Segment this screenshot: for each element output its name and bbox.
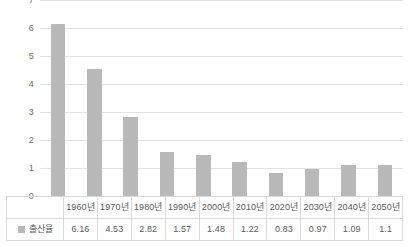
bar-slot — [294, 0, 330, 196]
y-axis-tick-label: 2 — [29, 136, 34, 145]
table-row-categories: 1960년1970년1980년1990년2000년2010년2020년2030년… — [7, 197, 403, 219]
bar-slot — [258, 0, 294, 196]
y-axis-tick-label: 5 — [29, 52, 34, 61]
bar — [160, 152, 175, 196]
table-cell-category: 2040년 — [335, 197, 369, 218]
table-cell-value: 1.48 — [200, 219, 234, 240]
bar-slot — [76, 0, 112, 196]
table-cell-category: 1960년 — [64, 197, 98, 218]
table-cell-value: 0.97 — [301, 219, 335, 240]
table-cell-value: 0.83 — [267, 219, 301, 240]
table-cell-category: 2010년 — [234, 197, 268, 218]
table-cell-category: 2030년 — [301, 197, 335, 218]
table-cell-category: 1980년 — [132, 197, 166, 218]
table-cell-value: 2.82 — [132, 219, 166, 240]
table-cell-category: 2020년 — [267, 197, 301, 218]
bar — [232, 162, 247, 196]
table-cell-category: 2000년 — [200, 197, 234, 218]
y-axis-tick-label: 7 — [29, 0, 34, 5]
table-cell-value: 1.57 — [166, 219, 200, 240]
bar — [196, 155, 211, 196]
table-row-values: 출산율 6.164.532.821.571.481.220.830.971.09… — [7, 219, 403, 241]
table-cell-value: 1.22 — [234, 219, 268, 240]
bar — [269, 173, 284, 196]
bar-slot — [367, 0, 403, 196]
table-cell-value: 6.16 — [64, 219, 98, 240]
y-axis-tick-label: 6 — [29, 24, 34, 33]
table-cell-value: 1.09 — [335, 219, 369, 240]
bar-slot — [221, 0, 257, 196]
bar — [87, 69, 102, 196]
legend-label: 출산율 — [29, 225, 53, 234]
plot-area: 76543210 — [0, 0, 409, 196]
bar-slot — [149, 0, 185, 196]
y-axis-tick-label: 3 — [29, 108, 34, 117]
bar — [51, 24, 66, 196]
table-cell-category: 1970년 — [98, 197, 132, 218]
legend-entry: 출산율 — [7, 219, 64, 240]
bar — [305, 169, 320, 196]
y-axis: 76543210 — [0, 0, 40, 196]
bar-slot — [40, 0, 76, 196]
data-table: 1960년1970년1980년1990년2000년2010년2020년2030년… — [6, 196, 403, 241]
y-axis-tick-label: 4 — [29, 80, 34, 89]
bar-slot — [113, 0, 149, 196]
bar — [123, 117, 138, 196]
bar-chart-figure: 76543210 1960년1970년1980년1990년2000년2010년2… — [0, 0, 409, 247]
table-corner-cell — [7, 197, 64, 218]
bar — [378, 165, 393, 196]
table-cell-value: 4.53 — [98, 219, 132, 240]
bar-slot — [330, 0, 366, 196]
table-cell-category: 1990년 — [166, 197, 200, 218]
table-cell-value: 1.1 — [369, 219, 403, 240]
table-cell-category: 2050년 — [369, 197, 403, 218]
bar — [341, 165, 356, 196]
legend-swatch-icon — [18, 226, 25, 233]
bars-layer — [40, 0, 403, 196]
bar-slot — [185, 0, 221, 196]
y-axis-tick-label: 1 — [29, 164, 34, 173]
